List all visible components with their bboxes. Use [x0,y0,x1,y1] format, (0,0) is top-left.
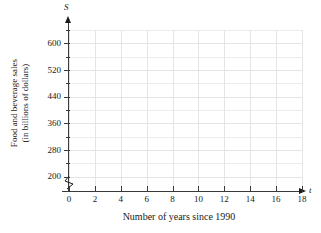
y-tick-minor [66,30,70,31]
x-tick-label: 16 [265,195,287,204]
y-axis-variable-label: S [64,2,69,12]
x-tick-label: 10 [187,195,209,204]
x-tick-label: 12 [213,195,235,204]
x-tick-label: 8 [162,195,184,204]
gridline-vertical [224,30,225,190]
x-tick-major [173,186,174,192]
y-tick-major [64,97,70,98]
gridline-horizontal [69,177,302,178]
x-tick-label: 0 [58,195,80,204]
x-tick-major [302,186,303,192]
gridline-vertical [121,30,122,190]
y-tick-minor [66,163,70,164]
gridline-horizontal [69,137,302,138]
y-tick-major [64,43,70,44]
gridline-horizontal [69,97,302,98]
y-axis-title-line-2: (in billions of dollars) [20,20,31,186]
y-tick-major [64,123,70,124]
gridline-horizontal [69,163,302,164]
gridline-vertical [276,30,277,190]
gridline-horizontal [69,70,302,71]
y-tick-minor [66,83,70,84]
y-tick-major [64,177,70,178]
gridline-horizontal [69,110,302,111]
gridline-vertical [302,30,303,190]
x-tick-label: 4 [110,195,132,204]
gridline-horizontal [69,57,302,58]
x-tick-label: 2 [84,195,106,204]
x-tick-major [198,186,199,192]
x-tick-major [69,186,70,192]
y-axis-arrow-icon [65,16,71,23]
gridline-horizontal [69,150,302,151]
x-tick-label: 18 [291,195,313,204]
gridline-vertical [173,30,174,190]
y-tick-minor [66,110,70,111]
y-tick-minor [66,57,70,58]
plot-area [69,30,302,190]
gridline-vertical [147,30,148,190]
x-axis-variable-label: t [309,185,312,195]
x-tick-major [147,186,148,192]
x-tick-label: 6 [136,195,158,204]
y-tick-major [64,70,70,71]
x-tick-label: 14 [239,195,261,204]
x-tick-major [250,186,251,192]
gridline-vertical [95,30,96,190]
gridline-horizontal [69,30,302,31]
y-axis-title-line-1: Food and beverage sales [9,59,19,147]
gridline-horizontal [69,123,302,124]
gridline-horizontal [69,83,302,84]
chart-figure: S t 200280360440520600 Food and beverage… [0,0,321,233]
y-tick-major [64,150,70,151]
gridline-horizontal [69,43,302,44]
y-axis-line [68,22,69,192]
gridline-vertical [198,30,199,190]
x-tick-major [224,186,225,192]
x-axis-line [62,191,300,192]
gridline-vertical [250,30,251,190]
y-tick-minor [66,137,70,138]
x-axis-title: Number of years since 1990 [54,211,304,223]
x-tick-major [276,186,277,192]
y-axis-title: Food and beverage sales (in billions of … [9,20,31,186]
x-tick-major [95,186,96,192]
x-tick-major [121,186,122,192]
